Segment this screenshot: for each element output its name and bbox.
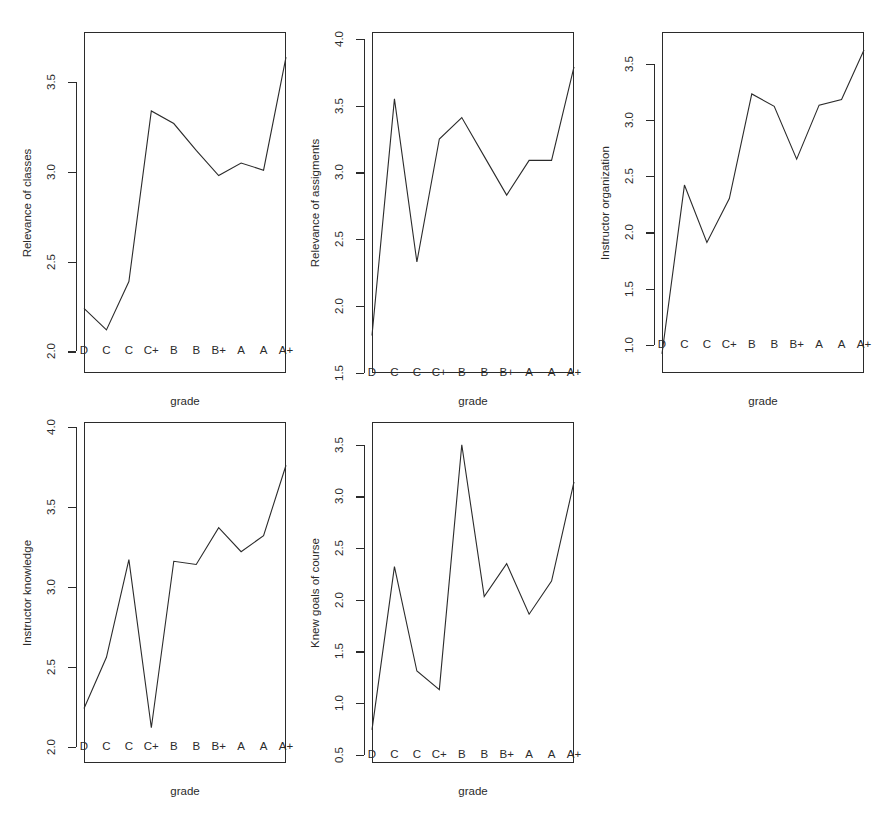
x-axis-tick-label: B xyxy=(480,748,488,760)
x-axis-tick-label: B xyxy=(458,366,466,378)
y-axis-tick xyxy=(356,548,364,549)
x-axis-tick-label: A xyxy=(548,366,556,378)
series-line-4 xyxy=(84,422,286,763)
x-axis-tick-label: C+ xyxy=(144,344,159,356)
y-axis-tick-label-text: 2.5 xyxy=(333,231,345,247)
y-axis-tick-label: 3.5 xyxy=(328,99,350,113)
y-axis-tick xyxy=(356,755,364,756)
x-axis-tick-label: C xyxy=(102,740,110,752)
x-axis-tick-label: A xyxy=(525,366,533,378)
y-axis-line xyxy=(654,64,655,345)
y-axis-tick xyxy=(356,600,364,601)
y-axis-tick xyxy=(68,172,76,173)
y-axis-line xyxy=(76,427,77,747)
figure-grid: 2.02.53.03.5Relevance of classesDCCC+BBB… xyxy=(0,0,894,821)
y-axis-tick xyxy=(356,445,364,446)
y-axis-tick-label: 2.5 xyxy=(618,169,640,183)
x-axis-tick-label: B+ xyxy=(499,366,513,378)
y-axis-tick-label-text: 3.0 xyxy=(333,164,345,180)
y-axis-title: Knew goals of course xyxy=(306,422,324,763)
x-axis-tick-label: B xyxy=(458,748,466,760)
x-axis-title: grade xyxy=(372,785,574,797)
chart-panel-3: 1.01.52.02.53.03.5Instructor organizatio… xyxy=(590,10,888,410)
x-axis-tick-label: C xyxy=(125,740,133,752)
chart-panel-5: 0.51.01.52.02.53.03.5Knew goals of cours… xyxy=(300,400,598,800)
x-axis-tick-label: A+ xyxy=(279,740,293,752)
x-axis-title: grade xyxy=(84,785,286,797)
y-axis-tick xyxy=(68,82,76,83)
y-axis-tick xyxy=(646,176,654,177)
x-axis-tick-label: C xyxy=(390,748,398,760)
x-axis-tick-label: B xyxy=(170,740,178,752)
x-axis-tick-label: B+ xyxy=(211,344,225,356)
x-axis-tick-labels: DCCC+BBB+AAA+ xyxy=(372,748,574,762)
y-axis-tick-label: 2.0 xyxy=(618,225,640,239)
y-axis-tick-label: 3.0 xyxy=(40,580,62,594)
y-axis-title: Relevance of assigments xyxy=(306,32,324,373)
y-axis-tick xyxy=(646,64,654,65)
x-axis-tick-label: A xyxy=(260,740,268,752)
y-axis-tick xyxy=(646,120,654,121)
y-axis-tick-label-text: 2.5 xyxy=(45,254,57,270)
x-axis-tick-label: C xyxy=(703,338,711,350)
x-axis-tick-label: C xyxy=(413,366,421,378)
y-axis-title: Relevance of classes xyxy=(18,32,36,373)
y-axis-title-text: Relevance of classes xyxy=(21,148,33,257)
x-axis-tick-label: B+ xyxy=(499,748,513,760)
y-axis-line xyxy=(76,82,77,351)
y-axis-tick xyxy=(646,232,654,233)
y-axis-tick-label-text: 3.5 xyxy=(333,437,345,453)
y-axis-tick xyxy=(356,39,364,40)
y-axis-title-text: Knew goals of course xyxy=(309,538,321,648)
x-axis-tick-label: C+ xyxy=(432,748,447,760)
y-axis-tick xyxy=(356,306,364,307)
y-axis-tick xyxy=(356,703,364,704)
y-axis-tick-label: 4.0 xyxy=(40,420,62,434)
y-axis-tick-label: 2.0 xyxy=(328,299,350,313)
y-axis-tick-label: 2.0 xyxy=(328,593,350,607)
y-axis-tick-label-text: 2.0 xyxy=(45,343,57,359)
x-axis-tick-label: B xyxy=(770,338,778,350)
y-axis-tick-label-text: 3.5 xyxy=(623,56,635,72)
y-axis-tick xyxy=(68,747,76,748)
y-axis-title-text: Relevance of assigments xyxy=(309,138,321,266)
y-axis-tick-label-text: 3.0 xyxy=(333,488,345,504)
y-axis-title-text: Instructor organization xyxy=(599,146,611,260)
chart-panel-4: 2.02.53.03.54.0Instructor knowledgeDCCC+… xyxy=(12,400,310,800)
y-axis-tick-label-text: 3.0 xyxy=(45,579,57,595)
y-axis-tick-label: 3.5 xyxy=(40,500,62,514)
y-axis-tick-label-text: 3.5 xyxy=(333,98,345,114)
y-axis-tick-label: 2.5 xyxy=(328,232,350,246)
y-axis-title: Instructor organization xyxy=(596,32,614,373)
y-axis-tick xyxy=(68,587,76,588)
x-axis-tick-label: A+ xyxy=(567,366,581,378)
y-axis-title-text: Instructor knowledge xyxy=(21,539,33,645)
y-axis-tick-label-text: 2.5 xyxy=(45,659,57,675)
data-polyline xyxy=(372,445,574,730)
x-axis-tick-label: A+ xyxy=(567,748,581,760)
x-axis-tick-label: A xyxy=(260,344,268,356)
x-axis-tick-label: A+ xyxy=(857,338,871,350)
y-axis-tick-label: 2.5 xyxy=(328,541,350,555)
y-axis-tick-label-text: 2.5 xyxy=(623,168,635,184)
x-axis-tick-label: B xyxy=(480,366,488,378)
y-axis-tick-label: 1.0 xyxy=(328,696,350,710)
data-polyline xyxy=(662,50,864,354)
y-axis-line xyxy=(364,445,365,755)
y-axis-tick xyxy=(646,289,654,290)
x-axis-tick-label: C xyxy=(680,338,688,350)
y-axis-tick-label: 3.5 xyxy=(328,438,350,452)
x-axis-tick-label: A xyxy=(548,748,556,760)
y-axis-tick xyxy=(356,373,364,374)
x-axis-tick-label: D xyxy=(80,344,88,356)
y-axis-tick-label: 2.5 xyxy=(40,660,62,674)
data-polyline xyxy=(372,67,574,336)
y-axis-tick-label: 3.5 xyxy=(618,57,640,71)
x-axis-tick-labels: DCCC+BBB+AAA+ xyxy=(84,344,286,358)
y-axis-tick-label-text: 2.0 xyxy=(333,298,345,314)
y-axis-tick-label-text: 1.0 xyxy=(623,337,635,353)
y-axis-tick-label-text: 3.5 xyxy=(45,74,57,90)
x-axis-tick-label: B xyxy=(748,338,756,350)
y-axis-tick xyxy=(356,172,364,173)
y-axis-tick xyxy=(356,106,364,107)
